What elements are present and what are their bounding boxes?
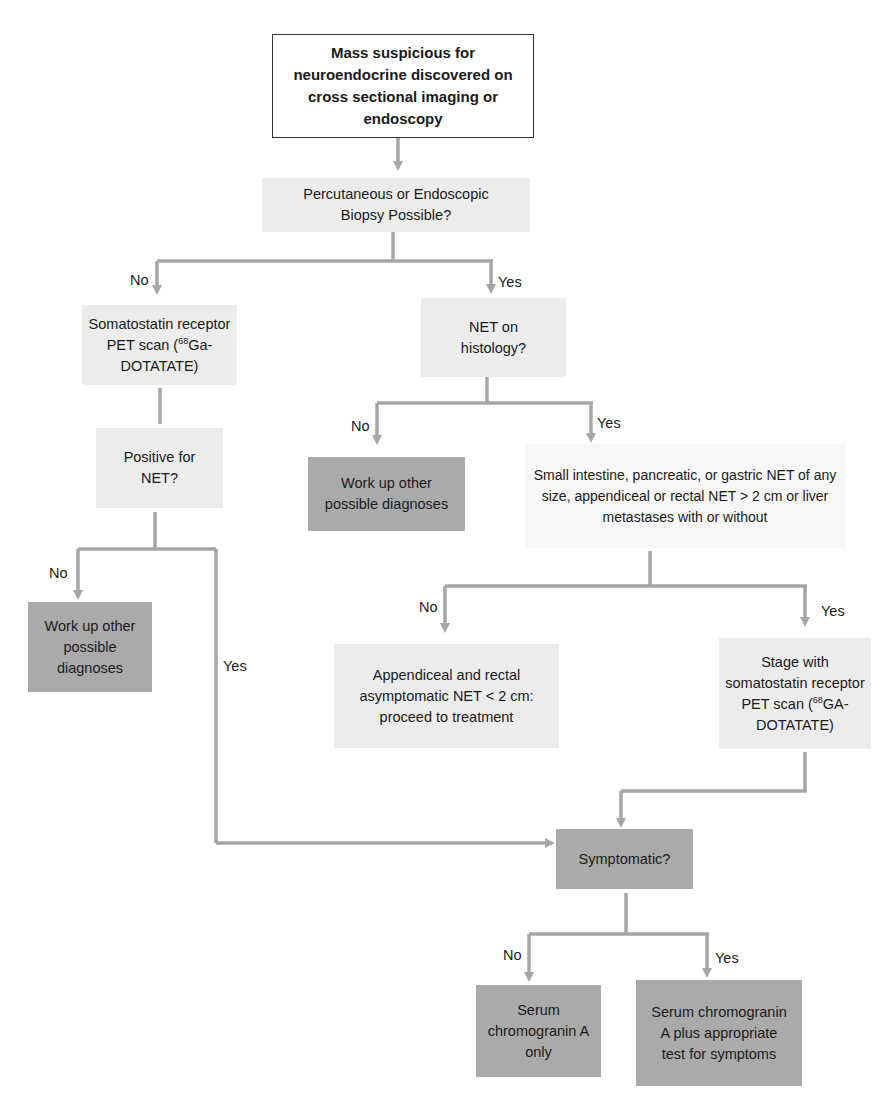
small-intestine-text: Small intestine, pancreatic, or gastric … [525,465,845,528]
symptomatic-text: Symptomatic? [579,849,671,870]
edge-label-histology-yes: Yes [597,415,621,431]
outcome-workup-other-diagnoses-right: Work up other possible diagnoses [308,457,465,531]
edge-label-histology-no: No [351,418,370,434]
workup-right-text: Work up other possible diagnoses [308,473,465,515]
net-histology-text: NET on histology? [421,317,566,359]
edge-label-small-yes: Yes [821,603,845,619]
decision-symptomatic: Symptomatic? [556,829,693,889]
positive-net-text: Positive for NET? [96,447,223,489]
decision-positive-for-net: Positive for NET? [96,428,223,508]
serum-only-text: Serum chromogranin A only [476,1000,601,1063]
step-stage-somatostatin-pet: Stage with somatostatin receptor PET sca… [719,638,871,749]
edge-label-small-no: No [419,599,438,615]
edge-label-positive-no: No [49,565,68,581]
biopsy-text: Percutaneous or Endoscopic Biopsy Possib… [262,184,530,226]
decision-net-on-histology: NET on histology? [421,298,566,377]
step-somatostatin-pet: Somatostatin receptor PET scan (68Ga-DOT… [82,305,237,385]
stage-pet-text: Stage with somatostatin receptor PET sca… [719,652,871,736]
outcome-serum-chromogranin-plus-tests: Serum chromogranin A plus appropriate te… [636,980,802,1086]
appendiceal-text: Appendiceal and rectal asymptomatic NET … [334,665,559,728]
start-node-text: Mass suspicious for neuroendocrine disco… [273,42,533,130]
somatostatin-pet-text: Somatostatin receptor PET scan (68Ga-DOT… [82,314,237,377]
edge-label-symptomatic-yes: Yes [715,950,739,966]
edge-label-positive-yes: Yes [223,658,247,674]
edge-label-biopsy-no: No [130,272,149,288]
decision-biopsy-possible: Percutaneous or Endoscopic Biopsy Possib… [262,178,530,232]
edge-label-biopsy-yes: Yes [498,274,522,290]
connector-lines [0,0,890,1097]
workup-left-text: Work up other possible diagnoses [28,616,152,679]
edge-label-symptomatic-no: No [503,947,522,963]
outcome-workup-other-diagnoses-left: Work up other possible diagnoses [28,602,152,692]
decision-small-intestine-pancreatic-gastric: Small intestine, pancreatic, or gastric … [525,444,845,548]
start-node-mass-suspicious: Mass suspicious for neuroendocrine disco… [272,34,534,138]
outcome-serum-chromogranin-only: Serum chromogranin A only [476,985,601,1077]
serum-plus-text: Serum chromogranin A plus appropriate te… [636,1002,802,1065]
outcome-appendiceal-rectal-treatment: Appendiceal and rectal asymptomatic NET … [334,644,559,748]
